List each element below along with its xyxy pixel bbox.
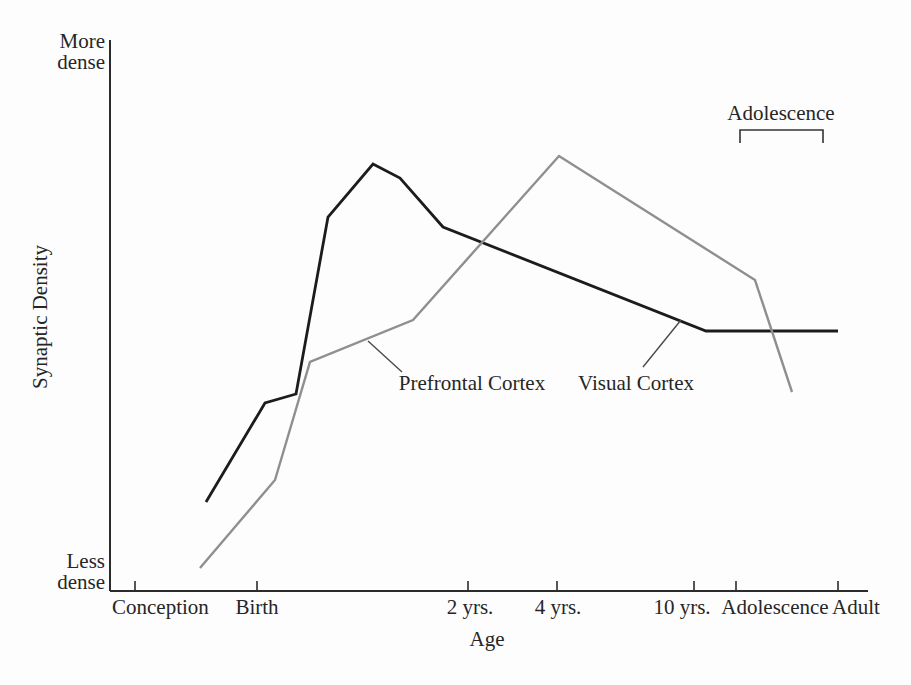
y-axis-max-label: More dense [45,31,105,73]
series-label-visual-cortex: Visual Cortex [578,372,694,395]
curve-prefrontal-cortex [200,156,792,568]
x-tick-label-birth: Birth [235,596,278,619]
leader-line-prefrontal-cortex [368,341,402,372]
synaptic-density-figure: More dense Synaptic Density Less dense C… [0,0,911,685]
x-tick-label-4yrs: 4 yrs. [535,596,582,619]
y-axis-title: Synaptic Density [29,245,52,389]
x-tick-label-conception: Conception [112,596,209,619]
y-axis-max-line1: More [45,31,105,52]
series-label-prefrontal-cortex: Prefrontal Cortex [399,372,545,395]
x-tick-label-10yrs: 10 yrs. [653,596,710,619]
leader-line-visual-cortex [643,320,681,367]
adolescence-bracket-label: Adolescence [727,102,834,125]
y-axis-min-line1: Less [45,551,105,572]
x-tick-label-adult: Adult [832,596,880,619]
x-tick-label-adolescence: Adolescence [721,596,828,619]
curve-visual-cortex [206,164,838,502]
y-axis-min-line2: dense [45,572,105,593]
adolescence-bracket [740,130,823,143]
y-axis-max-line2: dense [45,52,105,73]
x-axis-title: Age [470,628,505,651]
y-axis-min-label: Less dense [45,551,105,593]
x-tick-label-2yrs: 2 yrs. [447,596,494,619]
